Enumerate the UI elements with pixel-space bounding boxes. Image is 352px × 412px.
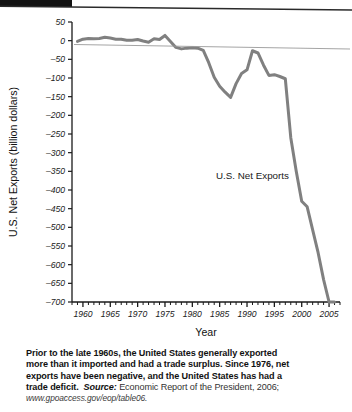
x-tick-label: 2000	[291, 309, 311, 319]
y-tick-label: 50	[55, 17, 65, 27]
x-axis-title: Year	[195, 326, 217, 338]
net-exports-line-chart: 500–50–100–150–200–250–300–350–400–450–5…	[0, 14, 352, 344]
x-tick-label: 1980	[183, 309, 202, 319]
y-tick-label: –300	[45, 148, 65, 158]
y-tick-label: –100	[45, 73, 65, 83]
y-tick-label: –450	[45, 204, 65, 214]
scan-artifact-top	[0, 0, 352, 14]
x-tick-label: 1990	[237, 309, 256, 319]
y-axis-title: U.S. Net Exports (billion dollars)	[7, 87, 19, 237]
x-tick-label: 1970	[128, 309, 147, 319]
chart-figure: 500–50–100–150–200–250–300–350–400–450–5…	[0, 14, 352, 344]
source-text: Economic Report of the President, 2006;	[119, 382, 279, 392]
y-tick-label: –150	[45, 92, 65, 102]
series-annotation-label: U.S. Net Exports	[216, 170, 289, 181]
x-tick-label: 1960	[73, 309, 92, 319]
y-tick-label: –350	[45, 166, 65, 176]
x-tick-label: 1985	[210, 309, 229, 319]
source-url: www.gpoaccess.gov/eop/table06.	[26, 393, 326, 403]
x-tick-label: 1965	[101, 309, 120, 319]
y-axis-ticks: 500–50–100–150–200–250–300–350–400–450–5…	[45, 17, 72, 307]
y-tick-label: –550	[45, 241, 65, 251]
caption-line-3: exports have been negative, and the Unit…	[26, 371, 326, 382]
y-tick-label: –700	[45, 297, 65, 307]
scan-slant-line-overlay	[74, 45, 350, 50]
source-label: Source:	[84, 382, 117, 392]
y-tick-label: –400	[45, 185, 65, 195]
x-tick-label: 1995	[265, 309, 284, 319]
x-axis-major-ticks: 1960196519701975198019851990199520002005	[73, 302, 338, 319]
figure-caption: Prior to the late 1960s, the United Stat…	[0, 344, 352, 412]
y-tick-label: –500	[45, 222, 65, 232]
caption-line-4: trade deficit. Source: Economic Report o…	[26, 382, 326, 393]
chart-axes	[72, 22, 340, 302]
x-tick-label: 2005	[318, 309, 338, 319]
caption-line-2: more than it imported and had a trade su…	[26, 359, 326, 370]
scan-black-bar	[0, 0, 72, 7]
y-tick-label: 0	[60, 36, 65, 46]
y-tick-label: –250	[45, 129, 65, 139]
scan-slant-line	[0, 5, 352, 12]
y-tick-label: –200	[45, 110, 65, 120]
caption-lead-text: trade deficit.	[26, 382, 79, 392]
caption-line-1: Prior to the late 1960s, the United Stat…	[26, 348, 326, 359]
y-tick-label: –600	[45, 260, 65, 270]
series-line-us-net-exports	[77, 35, 334, 302]
y-tick-label: –650	[45, 278, 65, 288]
x-tick-label: 1975	[155, 309, 174, 319]
y-tick-label: –50	[50, 54, 66, 64]
